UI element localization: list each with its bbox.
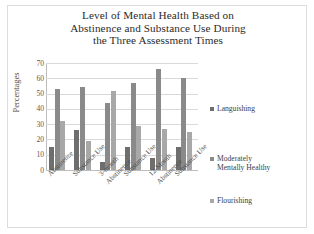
y-axis-tick-label: 70 — [36, 60, 44, 68]
legend-label: ModeratelyMentally Healthy — [217, 154, 270, 172]
y-axis-tick-label: 20 — [36, 136, 44, 144]
chart-title: Level of Mental Health Based on Abstinen… — [22, 9, 294, 47]
legend-item[interactable]: Flourishing — [210, 196, 252, 205]
chart-title-line-2: Abstinence and Substance Use During — [22, 22, 294, 35]
legend-item[interactable]: ModeratelyMentally Healthy — [210, 154, 270, 172]
legend-label: Flourishing — [217, 196, 252, 205]
y-axis-tick-label: 30 — [36, 121, 44, 129]
y-axis-tick-label: 50 — [36, 90, 44, 98]
y-axis-tick-label: 10 — [36, 151, 44, 159]
bar — [156, 69, 161, 170]
y-axis-tick-label: 40 — [36, 105, 44, 113]
legend-item[interactable]: Languishing — [210, 104, 255, 113]
legend-label: Languishing — [217, 104, 255, 113]
chart-figure: Level of Mental Health Based on Abstinen… — [0, 0, 314, 234]
bar — [131, 83, 136, 170]
legend-swatch-icon — [210, 107, 214, 111]
legend-swatch-icon — [210, 199, 214, 203]
y-axis-tick-label: 60 — [36, 75, 44, 83]
bar-group — [100, 63, 117, 170]
x-axis-category-labels: AbstinenceSubstance Use3-monthAbstinence… — [46, 171, 206, 229]
legend-swatch-icon — [210, 157, 214, 161]
y-axis-tick-label: 0 — [40, 167, 44, 175]
y-axis-tick-labels: 010203040506070 — [26, 63, 44, 171]
chart-title-line-1: Level of Mental Health Based on — [22, 9, 294, 22]
chart-title-line-3: the Three Assessment Times — [22, 34, 294, 47]
bar — [181, 78, 186, 170]
y-axis-title: Percentages — [12, 63, 21, 123]
